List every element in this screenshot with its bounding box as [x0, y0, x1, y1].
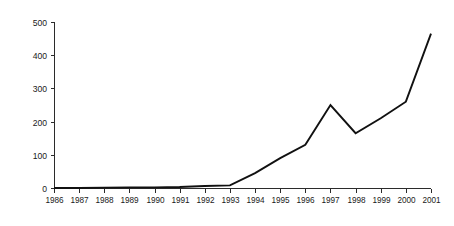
x-tick-label: 1990: [146, 196, 165, 205]
x-tick-label: 1989: [120, 196, 139, 205]
y-tick-label: 400: [33, 51, 48, 61]
y-tick-label: 100: [33, 151, 48, 161]
y-tick-label: 300: [33, 84, 48, 94]
x-tick-label: 1994: [246, 196, 265, 205]
x-tick-label: 2001: [422, 196, 441, 205]
x-tick-label: 1988: [95, 196, 114, 205]
x-tick-label: 1998: [347, 196, 366, 205]
x-tick-label: 1987: [70, 196, 89, 205]
x-tick-label: 1992: [196, 196, 215, 205]
x-tick-label: 1991: [171, 196, 190, 205]
x-tick-label: 2000: [397, 196, 416, 205]
line-chart: 0100200300400500 19861987198819891990199…: [0, 0, 454, 226]
x-tick-label: 1995: [271, 196, 290, 205]
y-tick-label: 0: [42, 184, 47, 194]
x-tick-label: 1999: [372, 196, 391, 205]
x-tick-label: 1993: [221, 196, 240, 205]
chart-canvas: 0100200300400500 19861987198819891990199…: [0, 0, 454, 226]
x-tick-label: 1997: [321, 196, 340, 205]
x-tick-label: 1986: [45, 196, 64, 205]
chart-background: [0, 0, 454, 226]
x-tick-label: 1996: [296, 196, 315, 205]
y-tick-label: 500: [33, 18, 48, 28]
y-tick-label: 200: [33, 118, 48, 128]
